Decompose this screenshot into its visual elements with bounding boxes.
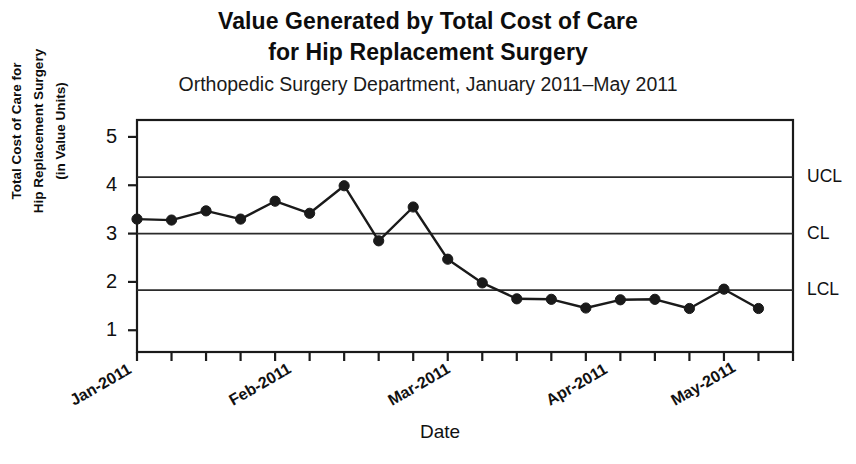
x-axis-label: Date	[330, 421, 550, 443]
data-point[interactable]	[615, 295, 625, 305]
data-point[interactable]	[201, 206, 211, 216]
chart-subtitle: Orthopedic Surgery Department, January 2…	[0, 71, 856, 98]
data-point[interactable]	[753, 303, 763, 313]
y-axis-label-line-3: (in Value Units)	[53, 11, 79, 251]
y-tick-label: 4	[91, 174, 117, 194]
data-point[interactable]	[270, 196, 280, 206]
data-point[interactable]	[132, 214, 142, 224]
y-tick-label: 2	[91, 271, 117, 291]
data-point[interactable]	[166, 215, 176, 225]
data-point[interactable]	[235, 214, 245, 224]
chart-figure: Value Generated by Total Cost of Care fo…	[0, 0, 856, 464]
data-point[interactable]	[408, 202, 418, 212]
chart-title-line-1: Value Generated by Total Cost of Care	[0, 6, 856, 37]
control-limit-label-cl: CL	[807, 225, 829, 242]
control-limit-label-ucl: UCL	[807, 168, 842, 185]
data-point[interactable]	[581, 303, 591, 313]
chart-title-block: Value Generated by Total Cost of Care fo…	[0, 6, 856, 98]
y-tick-label: 1	[91, 319, 117, 339]
data-point[interactable]	[443, 254, 453, 264]
data-point[interactable]	[339, 181, 349, 191]
data-point[interactable]	[719, 284, 729, 294]
data-point[interactable]	[305, 208, 315, 218]
control-limit-label-lcl: LCL	[807, 281, 839, 298]
data-point[interactable]	[684, 303, 694, 313]
data-point[interactable]	[546, 294, 556, 304]
data-point[interactable]	[477, 278, 487, 288]
data-point[interactable]	[512, 294, 522, 304]
y-tick-label: 5	[91, 126, 117, 146]
data-point[interactable]	[374, 236, 384, 246]
data-point[interactable]	[650, 294, 660, 304]
y-tick-label: 3	[91, 223, 117, 243]
chart-title-line-2: for Hip Replacement Surgery	[0, 37, 856, 68]
plot-frame	[137, 120, 793, 352]
